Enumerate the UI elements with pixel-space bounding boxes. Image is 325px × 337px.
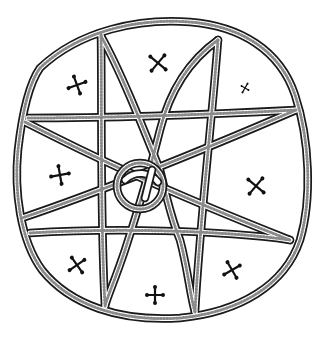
cross-icon — [145, 285, 165, 305]
cross-icon — [239, 169, 273, 203]
cross-icon — [217, 255, 247, 285]
cross-icon — [141, 46, 175, 80]
cross-icon — [62, 250, 93, 281]
ornament-figure: Circular ornament with eight-pointed sta… — [0, 0, 325, 337]
cross-icon — [47, 162, 72, 187]
cross-icon-small — [238, 80, 253, 95]
cross-icon — [63, 71, 91, 99]
ornament-drawing — [0, 0, 325, 337]
